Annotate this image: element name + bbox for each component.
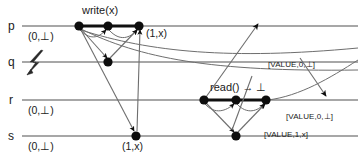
process-label-s: s	[8, 129, 14, 143]
p-initial-state: (0,⊥)	[28, 30, 54, 42]
spacetime-diagram: p q r s (0,⊥) (1,x) (0,⊥) (0,⊥) (1,x) wr…	[0, 0, 358, 163]
process-label-q: q	[8, 55, 15, 69]
message-arrow-group-read	[205, 24, 358, 132]
figure-canvas: p q r s (0,⊥) (1,x) (0,⊥) (0,⊥) (1,x) wr…	[0, 0, 358, 163]
message-value-1-x: [VALUE,1,x]	[264, 130, 308, 139]
process-label-p: p	[8, 19, 15, 33]
r-initial-state: (0,⊥)	[28, 104, 54, 116]
msg-s-to-p3	[137, 30, 140, 131]
s-final-state: (1,x)	[122, 140, 143, 152]
write-operation-label: write(x)	[81, 4, 118, 16]
event-dot-r-3	[261, 95, 270, 104]
msg-p1-long-right	[81, 29, 358, 70]
message-value-0-bot-lower: [VALUE,0,⊥]	[286, 112, 333, 121]
p-final-state: (1,x)	[146, 27, 167, 39]
event-dot-s-2	[231, 131, 240, 140]
message-value-0-bot-upper: [VALUE,0,⊥]	[268, 60, 315, 69]
event-dot-r-2	[231, 95, 240, 104]
s-initial-state: (0,⊥)	[28, 140, 54, 152]
msg-p2-to-p3-curve	[109, 30, 137, 38]
process-label-r: r	[9, 93, 13, 107]
msg-p1-long-right-2	[81, 30, 358, 54]
process-label-group: p q r s	[8, 19, 15, 143]
msg-p1-to-s	[80, 28, 134, 131]
msg-r1-to-r2-curve	[205, 104, 234, 111]
event-dot-r-1	[199, 95, 208, 104]
read-operation-label: read() → ⊥	[210, 81, 266, 93]
event-dot-p-3	[134, 21, 143, 30]
event-dot-p-2	[103, 21, 112, 30]
event-dot-p-1	[74, 21, 83, 30]
operation-label-group: write(x) read() → ⊥	[81, 4, 266, 93]
event-dot-q-1	[103, 57, 112, 66]
